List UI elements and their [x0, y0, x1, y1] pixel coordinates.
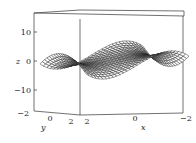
z-tick-label: 0 [26, 57, 31, 66]
x-axis-label: x [141, 123, 146, 132]
surface-plot: 10 0 −10 z −2 0 2 y 2 0 −2 x [0, 0, 196, 143]
x-tick-label: −2 [180, 114, 192, 123]
z-tick-label: 10 [21, 28, 31, 37]
y-axis-label: y [40, 123, 46, 132]
y-axis: −2 0 2 y [17, 109, 73, 132]
x-tick-label: 2 [84, 117, 89, 126]
surface-mesh [40, 41, 189, 79]
x-tick-label: 0 [132, 114, 137, 123]
y-tick-label: −2 [17, 109, 29, 118]
z-axis: 10 0 −10 z [14, 28, 37, 95]
x-axis: 2 0 −2 x [84, 114, 191, 132]
y-tick-label: 0 [47, 114, 52, 123]
y-tick-label: 2 [68, 117, 73, 126]
z-tick-label: −10 [14, 86, 31, 95]
z-axis-label: z [15, 57, 21, 66]
